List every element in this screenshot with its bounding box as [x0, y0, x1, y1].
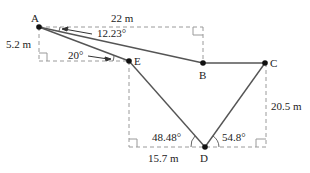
label-e: E: [134, 55, 141, 67]
measure-left-height: 5.2 m: [6, 38, 32, 50]
point-a: [36, 24, 42, 30]
angle-arc-ae: [113, 55, 114, 61]
arrowhead-20-icon: [105, 57, 111, 61]
point-c: [262, 60, 268, 66]
angle-label-d-left: 48.48°: [152, 131, 181, 143]
label-d: D: [200, 152, 208, 164]
right-angle-top-icon: [193, 27, 203, 35]
label-a: A: [31, 12, 39, 24]
angle-label-ab: 12.23°: [97, 27, 126, 39]
measure-bottom-left-width: 15.7 m: [148, 152, 179, 164]
right-angle-bottom-right-icon: [256, 139, 266, 147]
label-b: B: [199, 69, 206, 81]
arrowhead-12-icon: [62, 27, 68, 31]
angle-label-d-right: 54.8°: [222, 131, 246, 143]
angle-arc-d-left: [191, 136, 195, 147]
right-angle-bottom-left-icon: [129, 139, 137, 147]
geometry-diagram: A E B C D 22 m 5.2 m 20.5 m 15.7 m 12.23…: [0, 0, 310, 173]
angle-arc-d-right: [213, 136, 219, 147]
measure-top-width: 22 m: [111, 12, 134, 24]
path-segments: [39, 27, 265, 147]
angle-arc-ab: [59, 27, 60, 31]
point-d: [202, 144, 208, 150]
point-b: [200, 60, 206, 66]
measure-right-height: 20.5 m: [271, 100, 302, 112]
angle-label-ae: 20°: [68, 49, 83, 61]
right-angle-left-icon: [39, 53, 47, 61]
point-e: [126, 58, 132, 64]
label-c: C: [270, 57, 277, 69]
angle-arcs: [59, 27, 219, 147]
